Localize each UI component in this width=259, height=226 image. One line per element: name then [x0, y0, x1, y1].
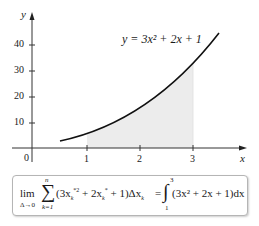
origin-label: 0 [24, 152, 29, 163]
curve-label: y = 3x² + 2x + 1 [122, 32, 202, 47]
lim: lim [20, 187, 35, 199]
y-tick-10: 10 [14, 116, 24, 127]
x-axis-label: x [240, 152, 245, 164]
equals: = [155, 187, 161, 199]
sum-lower: k=1 [42, 203, 53, 211]
y-axis-arrow-icon [30, 12, 35, 20]
y-tick-40: 40 [14, 38, 24, 49]
y-tick-30: 30 [14, 64, 24, 75]
summand: (3xk*2 + 2xk* + 1)Δxk [56, 187, 144, 201]
int-upper: 3 [170, 176, 174, 184]
integral-icon: ∫ [163, 180, 168, 203]
y-axis-label: y [21, 8, 26, 20]
y-tick-20: 20 [14, 90, 24, 101]
shaded-region [87, 64, 193, 148]
x-tick-3: 3 [190, 153, 195, 164]
integrand: (3x² + 2x + 1)dx [172, 187, 245, 199]
int-lower: 1 [165, 204, 169, 212]
sum-upper: n [45, 176, 49, 184]
x-tick-1: 1 [84, 153, 89, 164]
lim-subscript: Δ→0 [20, 201, 35, 209]
x-axis-arrow-icon [239, 146, 247, 151]
x-tick-2: 2 [137, 153, 142, 164]
